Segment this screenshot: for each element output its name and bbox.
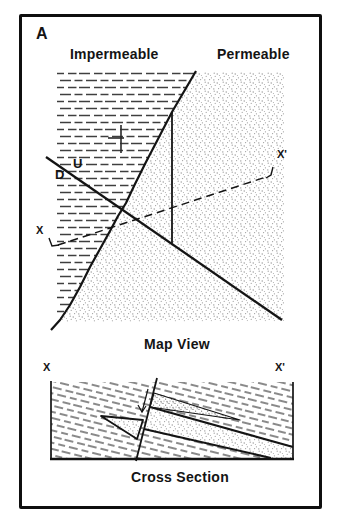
section-start-label: X (43, 361, 50, 373)
fault-downthrown-label: D (55, 167, 64, 182)
fault-upthrown-label: U (73, 156, 82, 171)
map-view-caption: Map View (144, 336, 210, 352)
section-end-label: X' (275, 361, 285, 373)
map-section-end-label: X' (277, 148, 287, 160)
impermeable-label: Impermeable (70, 46, 159, 62)
permeable-label: Permeable (217, 46, 290, 62)
map-section-start-label: X (36, 224, 43, 236)
cross-section-caption: Cross Section (131, 469, 229, 485)
panel-label: A (36, 25, 48, 43)
diagram-artwork (0, 0, 337, 522)
